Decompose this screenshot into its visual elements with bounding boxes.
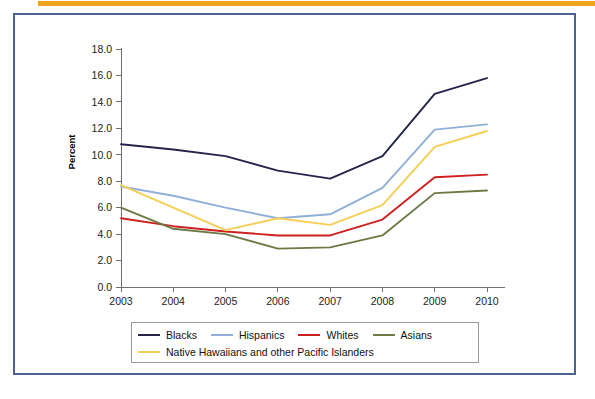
- x-tick-label: 2009: [423, 295, 447, 307]
- legend-item-label: Hispanics: [239, 329, 285, 341]
- legend-item: Asians: [373, 329, 433, 341]
- legend-row-secondary: Native Hawaiians and other Pacific Islan…: [138, 343, 472, 360]
- y-tick-label: 10.0: [92, 149, 113, 161]
- legend-line-swatch-icon: [211, 334, 233, 336]
- chart-legend: BlacksHispanicsWhitesAsians Native Hawai…: [131, 322, 479, 363]
- legend-item-label: Blacks: [166, 329, 197, 341]
- series-line-hispanics: [121, 124, 487, 218]
- y-tick-label: 12.0: [92, 122, 113, 134]
- legend-line-swatch-icon: [298, 334, 320, 336]
- legend-item: Blacks: [138, 329, 197, 341]
- y-tick-label: 0.0: [97, 281, 112, 293]
- legend-line-swatch-icon: [138, 334, 160, 336]
- y-tick-label: 8.0: [97, 175, 112, 187]
- top-accent-rule: [38, 1, 595, 6]
- y-tick-label: 18.0: [92, 43, 113, 55]
- x-tick-label: 2003: [109, 295, 133, 307]
- legend-row-primary: BlacksHispanicsWhitesAsians: [138, 326, 472, 343]
- legend-line-swatch-icon: [373, 334, 395, 336]
- series-line-blacks: [121, 78, 487, 178]
- x-tick-label: 2008: [371, 295, 395, 307]
- chart-svg: 0.02.04.06.08.010.012.014.016.018.020032…: [15, 15, 574, 373]
- x-tick-label: 2007: [318, 295, 342, 307]
- x-tick-label: 2005: [214, 295, 238, 307]
- legend-item-label: Asians: [401, 329, 433, 341]
- x-tick-label: 2010: [475, 295, 499, 307]
- y-tick-label: 14.0: [92, 96, 113, 108]
- legend-item: Whites: [298, 329, 358, 341]
- y-tick-label: 16.0: [92, 69, 113, 81]
- y-tick-label: 2.0: [97, 254, 112, 266]
- x-tick-label: 2006: [266, 295, 290, 307]
- y-tick-label: 4.0: [97, 228, 112, 240]
- figure-frame: 0.02.04.06.08.010.012.014.016.018.020032…: [13, 13, 576, 375]
- line-chart: 0.02.04.06.08.010.012.014.016.018.020032…: [15, 15, 574, 373]
- x-tick-label: 2004: [162, 295, 186, 307]
- page-root: 0.02.04.06.08.010.012.014.016.018.020032…: [0, 0, 595, 399]
- legend-item-label: Native Hawaiians and other Pacific Islan…: [166, 346, 374, 358]
- y-tick-label: 6.0: [97, 201, 112, 213]
- legend-item: Hispanics: [211, 329, 285, 341]
- series-line-asians: [121, 190, 487, 248]
- legend-item-label: Whites: [326, 329, 358, 341]
- legend-line-swatch-icon: [138, 351, 160, 353]
- y-axis-title: Percent: [66, 134, 77, 170]
- series-line-whites: [121, 175, 487, 236]
- legend-item: Native Hawaiians and other Pacific Islan…: [138, 346, 374, 358]
